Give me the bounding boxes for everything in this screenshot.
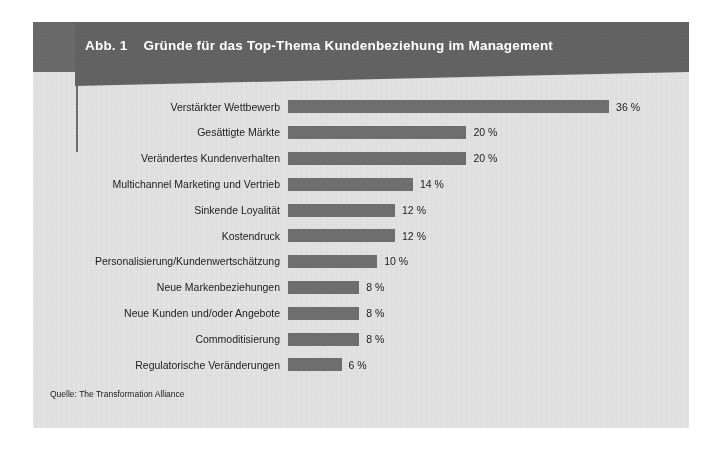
bar bbox=[288, 178, 413, 191]
bar bbox=[288, 358, 342, 371]
chart-row: Commoditisierung8 % bbox=[33, 326, 689, 352]
bar-zone: 8 % bbox=[288, 275, 689, 301]
bar-value-label: 8 % bbox=[366, 282, 384, 293]
bar-zone: 6 % bbox=[288, 352, 689, 378]
bar bbox=[288, 281, 359, 294]
chart-row: Neue Markenbeziehungen8 % bbox=[33, 275, 689, 301]
figure-header-title: Abb. 1Gründe für das Top-Thema Kundenbez… bbox=[85, 38, 553, 53]
bar-zone: 8 % bbox=[288, 326, 689, 352]
bar bbox=[288, 152, 466, 165]
source-attribution: Quelle: The Transformation Alliance bbox=[50, 389, 185, 399]
chart-row: Kostendruck12 % bbox=[33, 223, 689, 249]
bar-value-label: 12 % bbox=[402, 205, 426, 216]
chart-row: Neue Kunden und/oder Angebote8 % bbox=[33, 300, 689, 326]
figure-number-label: Abb. 1 bbox=[85, 38, 127, 53]
category-label: Verstärkter Wettbewerb bbox=[33, 102, 288, 113]
category-label: Kostendruck bbox=[33, 231, 288, 242]
bar-chart: Verstärkter Wettbewerb36 %Gesättigte Mär… bbox=[33, 94, 689, 394]
figure-container: Abb. 1Gründe für das Top-Thema Kundenbez… bbox=[33, 22, 689, 428]
chart-row: Gesättigte Märkte20 % bbox=[33, 120, 689, 146]
bar-zone: 36 % bbox=[288, 94, 689, 120]
chart-row: Sinkende Loyalität12 % bbox=[33, 197, 689, 223]
bar-value-label: 12 % bbox=[402, 231, 426, 242]
bar-value-label: 8 % bbox=[366, 334, 384, 345]
category-label: Verändertes Kundenverhalten bbox=[33, 153, 288, 164]
bar bbox=[288, 333, 359, 346]
category-label: Commoditisierung bbox=[33, 334, 288, 345]
bar-value-label: 6 % bbox=[349, 360, 367, 371]
bar-value-label: 20 % bbox=[473, 127, 497, 138]
bar bbox=[288, 229, 395, 242]
bar-zone: 12 % bbox=[288, 197, 689, 223]
bar-value-label: 36 % bbox=[616, 102, 640, 113]
chart-row: Personalisierung/Kundenwertschätzung10 % bbox=[33, 249, 689, 275]
bar bbox=[288, 126, 466, 139]
bar-zone: 20 % bbox=[288, 120, 689, 146]
category-label: Gesättigte Märkte bbox=[33, 127, 288, 138]
category-label: Neue Markenbeziehungen bbox=[33, 282, 288, 293]
bar-zone: 12 % bbox=[288, 223, 689, 249]
page-title: Gründe für das Top-Thema Kundenbeziehung… bbox=[143, 38, 553, 53]
header-band bbox=[75, 22, 689, 86]
category-label: Neue Kunden und/oder Angebote bbox=[33, 308, 288, 319]
category-label: Regulatorische Veränderungen bbox=[33, 360, 288, 371]
chart-row: Verstärkter Wettbewerb36 % bbox=[33, 94, 689, 120]
bar-value-label: 8 % bbox=[366, 308, 384, 319]
chart-row: Regulatorische Veränderungen6 % bbox=[33, 352, 689, 378]
bar bbox=[288, 255, 377, 268]
bar-zone: 20 % bbox=[288, 146, 689, 172]
category-label: Multichannel Marketing und Vertrieb bbox=[33, 179, 288, 190]
bar bbox=[288, 100, 609, 113]
category-label: Sinkende Loyalität bbox=[33, 205, 288, 216]
bar bbox=[288, 204, 395, 217]
bar-value-label: 14 % bbox=[420, 179, 444, 190]
bar bbox=[288, 307, 359, 320]
bar-zone: 8 % bbox=[288, 300, 689, 326]
chart-row: Multichannel Marketing und Vertrieb14 % bbox=[33, 171, 689, 197]
header-left-accent-block bbox=[33, 22, 75, 72]
chart-row: Verändertes Kundenverhalten20 % bbox=[33, 146, 689, 172]
category-label: Personalisierung/Kundenwertschätzung bbox=[33, 256, 288, 267]
bar-zone: 10 % bbox=[288, 249, 689, 275]
bar-zone: 14 % bbox=[288, 171, 689, 197]
bar-value-label: 20 % bbox=[473, 153, 497, 164]
bar-value-label: 10 % bbox=[384, 256, 408, 267]
